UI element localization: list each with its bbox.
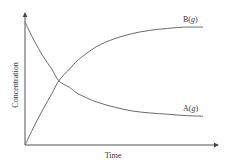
concentration-time-chart: B(g) A(g) Time Concentration [0, 0, 227, 168]
y-axis-title: Concentration [11, 62, 20, 107]
label-a-g: A(g) [183, 104, 198, 113]
label-b-g: B(g) [183, 15, 198, 24]
curve-a-g [25, 22, 203, 116]
curve-b-g [25, 27, 203, 145]
x-axis-title: Time [105, 151, 122, 160]
